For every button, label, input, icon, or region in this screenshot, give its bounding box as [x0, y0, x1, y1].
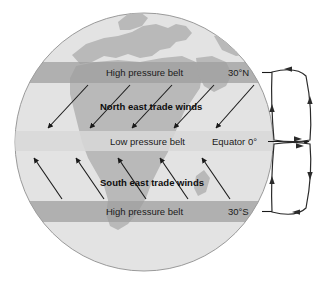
latitude-label-30n: 30°N — [228, 67, 249, 78]
high-pressure-belt-south-label: High pressure belt — [106, 206, 183, 217]
north-east-trade-winds-label: North east trade winds — [100, 101, 202, 112]
hadley-cell-north — [272, 70, 311, 142]
low-pressure-belt-label: Low pressure belt — [110, 136, 185, 147]
hadley-cell-south — [272, 143, 311, 215]
circulation-cells — [269, 66, 312, 214]
equator-label: Equator 0° — [212, 136, 257, 147]
diagram-canvas: High pressure belt 30°N Low pressure bel… — [0, 0, 321, 284]
south-east-trade-winds-label: South east trade winds — [100, 177, 204, 188]
trade-winds-diagram: High pressure belt 30°N Low pressure bel… — [0, 0, 321, 284]
latitude-label-30s: 30°S — [228, 206, 249, 217]
high-pressure-belt-north-label: High pressure belt — [106, 67, 183, 78]
